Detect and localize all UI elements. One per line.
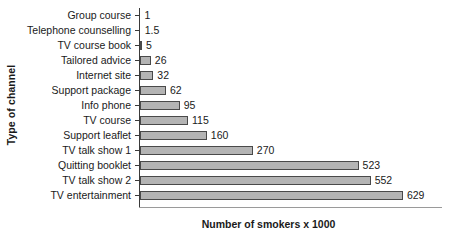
bar-row: TV talk show 2552 [22,173,442,188]
bar-cell: 1 [139,8,442,23]
x-axis-line [139,207,442,208]
y-axis-title-label: Type of channel [5,65,17,146]
bar-value-label: 160 [207,130,229,141]
category-label: Quitting booklet [22,160,135,171]
bar-cell: 552 [139,173,442,188]
bar-value-label: 552 [371,175,393,186]
bar-row: TV entertainment629 [22,188,442,203]
category-label: TV course book [22,40,135,51]
bar [140,131,207,140]
category-label: Internet site [22,70,135,81]
category-label: TV entertainment [22,190,135,201]
bar-row: TV course book5 [22,38,442,53]
bar-cell: 270 [139,143,442,158]
y-axis-title: Type of channel [0,0,22,210]
bar-value-label: 95 [180,100,196,111]
bar [140,146,253,155]
y-axis-line [139,8,140,208]
bar-value-label: 1.5 [141,25,160,36]
category-label: Info phone [22,100,135,111]
bar [140,71,153,80]
bar [140,56,151,65]
bar-row: Quitting booklet523 [22,158,442,173]
bar-row: Group course1 [22,8,442,23]
bar-value-label: 62 [166,85,182,96]
bar-row: Support leaflet160 [22,128,442,143]
bar-value-label: 523 [359,160,381,171]
bar-value-label: 270 [253,145,275,156]
bar [140,161,359,170]
bar-value-label: 1 [140,10,150,21]
bar-row: Tailored advice26 [22,53,442,68]
bar-cell: 523 [139,158,442,173]
bar-cell: 160 [139,128,442,143]
category-label: Support leaflet [22,130,135,141]
category-label: Tailored advice [22,55,135,66]
category-label: TV talk show 2 [22,175,135,186]
bar-chart: Type of channel Group course1Telephone c… [0,0,452,247]
bar-row: Internet site32 [22,68,442,83]
bar-row: Support package62 [22,83,442,98]
bar [140,191,403,200]
category-label: Telephone counselling [22,25,135,36]
bar-value-label: 26 [151,55,167,66]
bar-value-label: 32 [153,70,169,81]
plot-area: Group course1Telephone counselling1.5TV … [22,8,442,208]
category-label: Support package [22,85,135,96]
bar-row: TV talk show 1270 [22,143,442,158]
bar-cell: 629 [139,188,442,203]
bar [140,101,180,110]
bar-row: Info phone95 [22,98,442,113]
bar-rows-container: Group course1Telephone counselling1.5TV … [22,8,442,203]
bar [140,176,371,185]
bar-cell: 26 [139,53,442,68]
bar-row: TV course115 [22,113,442,128]
bar-cell: 115 [139,113,442,128]
bar [140,116,188,125]
bar-cell: 1.5 [139,23,442,38]
bar-cell: 32 [139,68,442,83]
bar-value-label: 629 [403,190,425,201]
bar-cell: 5 [139,38,442,53]
category-label: Group course [22,10,135,21]
bar-cell: 95 [139,98,442,113]
category-label: TV talk show 1 [22,145,135,156]
bar-row: Telephone counselling1.5 [22,23,442,38]
x-axis-title: Number of smokers x 1000 [117,218,420,230]
bar-value-label: 5 [142,40,152,51]
bar-cell: 62 [139,83,442,98]
category-label: TV course [22,115,135,126]
bar-value-label: 115 [188,115,209,126]
bar [140,86,166,95]
